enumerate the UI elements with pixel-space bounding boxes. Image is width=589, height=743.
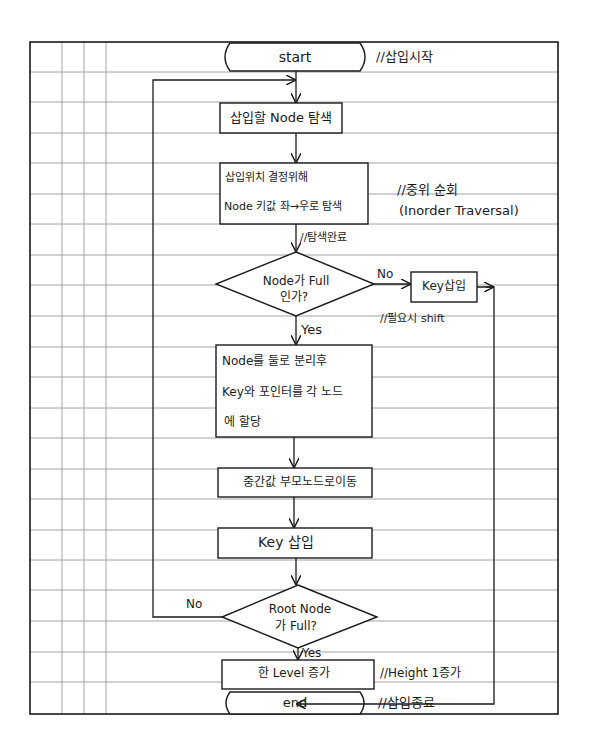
inorder-note-line2: (Inorder Traversal) xyxy=(399,204,519,217)
start-note: //삽입시작 xyxy=(376,50,433,63)
root-full-yes-label: Yes xyxy=(302,647,321,659)
root-full-line2: 가 Full? xyxy=(275,620,317,632)
find-position-line1: 삽입위치 결정위해 xyxy=(225,172,309,183)
move-middle-label: 중간값 부모노드로이동 xyxy=(243,476,357,488)
node-full-yes-label: Yes xyxy=(301,323,322,336)
node-full-no-label: No xyxy=(377,268,393,280)
node-full-line2: 인가? xyxy=(280,291,308,303)
find-position-line2: Node 키값 좌→우로 탐색 xyxy=(224,201,342,212)
split-node-line1: Node를 둘로 분리후 xyxy=(222,355,327,367)
search-done-note: //탐색완료 xyxy=(300,232,347,243)
split-node-line2: Key와 포인터를 각 노드 xyxy=(222,386,343,398)
root-full-no-label: No xyxy=(186,598,202,610)
start-label: start xyxy=(279,50,312,64)
height-note: //Height 1증가 xyxy=(380,667,461,679)
level-up-label: 한 Level 증가 xyxy=(258,667,330,679)
search-node-label: 삽입할 Node 탐색 xyxy=(230,111,332,124)
key-insert-simple-label: Key삽입 xyxy=(422,280,466,292)
end-label: end xyxy=(283,696,308,709)
shift-note: //필요시 shift xyxy=(380,313,445,324)
split-node-line3: 에 할당 xyxy=(224,416,261,428)
end-note: //삽입종료 xyxy=(378,696,435,709)
root-full-decision xyxy=(222,585,377,648)
root-full-line1: Root Node xyxy=(269,603,331,615)
inorder-note-line1: //중위 순회 xyxy=(397,183,458,196)
node-full-line1: Node가 Full xyxy=(263,275,330,287)
key-insert-label: Key 삽입 xyxy=(258,535,314,549)
